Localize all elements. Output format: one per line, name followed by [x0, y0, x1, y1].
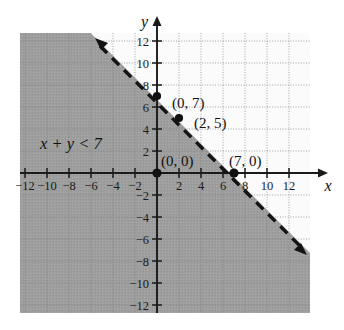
y-tick-label: 2 — [143, 145, 149, 159]
x-tick-label: 12 — [283, 179, 296, 193]
x-tick-label: −6 — [84, 179, 97, 193]
x-tick-label: −4 — [106, 179, 120, 193]
x-axis-label: x — [323, 177, 331, 194]
y-tick-label: 6 — [143, 101, 149, 115]
y-tick-label: 4 — [143, 123, 150, 137]
x-tick-label: 6 — [220, 179, 226, 193]
x-tick-label: −12 — [15, 179, 35, 193]
graph-figure: −12 −10 −8 −6 −4 −2 2 4 6 8 10 12 12 10 … — [0, 0, 344, 330]
y-axis-label: y — [139, 13, 149, 31]
x-tick-label: 4 — [198, 179, 205, 193]
y-tick-label: −10 — [129, 277, 149, 291]
point-label-7-0: (7, 0) — [229, 153, 262, 170]
x-tick-label: −10 — [37, 179, 57, 193]
point-label-0-7: (0, 7) — [172, 95, 205, 112]
point-label-2-5: (2, 5) — [194, 115, 227, 132]
y-tick-label: 10 — [137, 57, 150, 71]
inequality-label: x + y < 7 — [39, 134, 102, 153]
y-tick-label: −6 — [136, 233, 149, 247]
point-marker — [229, 168, 238, 177]
x-tick-label: −8 — [62, 179, 75, 193]
y-tick-label: −8 — [136, 255, 149, 269]
point-label-0-0: (0, 0) — [161, 153, 194, 170]
y-tick-label: −12 — [129, 299, 149, 313]
y-tick-label: 8 — [143, 79, 149, 93]
y-tick-label: −4 — [136, 211, 150, 225]
point-marker — [152, 168, 161, 177]
x-tick-label: 10 — [261, 179, 274, 193]
point-marker — [153, 92, 161, 100]
x-tick-label: 2 — [176, 179, 182, 193]
y-tick-label: 12 — [137, 35, 150, 49]
y-tick-label: −2 — [136, 189, 149, 203]
point-marker — [175, 114, 183, 122]
coordinate-plane: −12 −10 −8 −6 −4 −2 2 4 6 8 10 12 12 10 … — [0, 0, 344, 330]
